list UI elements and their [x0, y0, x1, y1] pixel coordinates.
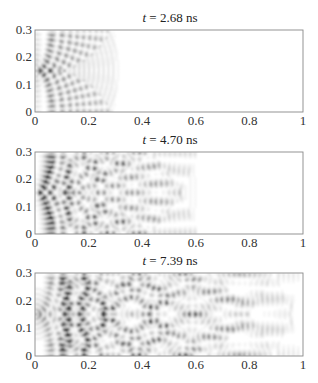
x-tick-label: 0: [32, 235, 39, 250]
y-tick-label: 0.2: [16, 171, 32, 186]
panel-2-title: t = 4.70 ns: [142, 132, 197, 147]
panel-1-title: t = 2.68 ns: [142, 10, 197, 25]
panel-3-heatmap: [35, 273, 299, 357]
x-tick-label: 1: [300, 113, 307, 128]
x-tick-label: 0.6: [188, 113, 205, 128]
y-tick-label: 0.2: [16, 49, 32, 64]
x-tick-label: 0.2: [80, 235, 96, 250]
y-tick-label: 0: [26, 348, 33, 363]
x-tick-label: 0.2: [80, 113, 96, 128]
x-tick-label: 0.8: [241, 235, 257, 250]
x-tick-label: 0.4: [134, 235, 151, 250]
y-tick-label: 0.1: [16, 320, 32, 335]
x-tick-label: 0.8: [241, 113, 257, 128]
y-tick-label: 0.2: [16, 293, 32, 308]
y-tick-label: 0: [26, 226, 33, 241]
x-tick-label: 0: [32, 113, 39, 128]
x-tick-label: 0.8: [241, 357, 257, 372]
x-tick-label: 0.4: [134, 113, 151, 128]
y-tick-label: 0.3: [16, 22, 32, 37]
x-tick-label: 0.4: [134, 357, 151, 372]
figure: t = 2.68 ns 00.20.40.60.8100.10.20.3 t =…: [0, 0, 318, 383]
x-tick-label: 0.6: [188, 357, 205, 372]
panel-3: t = 7.39 ns 00.20.40.60.8100.10.20.3: [16, 253, 307, 372]
x-tick-label: 1: [300, 357, 307, 372]
panel-3-title: t = 7.39 ns: [142, 253, 197, 268]
y-tick-label: 0.1: [16, 199, 32, 214]
y-tick-label: 0.3: [16, 265, 32, 280]
y-tick-label: 0.3: [16, 144, 32, 159]
x-tick-label: 0.6: [188, 235, 205, 250]
y-tick-label: 0: [26, 104, 33, 119]
x-tick-label: 0.2: [80, 357, 96, 372]
x-tick-label: 0: [32, 357, 39, 372]
panel-2-heatmap: [35, 152, 196, 235]
panel-1: t = 2.68 ns 00.20.40.60.8100.10.20.3: [16, 10, 307, 128]
y-tick-label: 0.1: [16, 77, 32, 92]
panel-2: t = 4.70 ns 00.20.40.60.8100.10.20.3: [16, 132, 307, 250]
panel-1-heatmap: [35, 30, 119, 113]
x-tick-label: 1: [300, 235, 307, 250]
